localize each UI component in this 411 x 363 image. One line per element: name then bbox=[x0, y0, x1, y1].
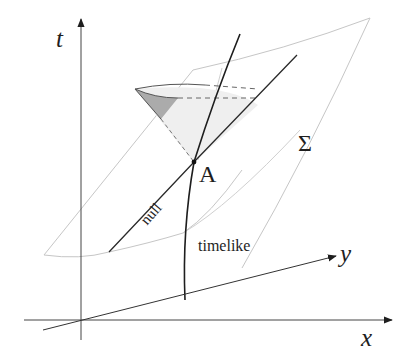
light-cone-diagram: t x y A Σ null timelike bbox=[0, 0, 411, 363]
timelike-label: timelike bbox=[198, 238, 250, 254]
t-axis-label: t bbox=[56, 26, 63, 51]
light-cone bbox=[135, 84, 258, 162]
point-a-label: A bbox=[199, 162, 216, 186]
x-axis-label: x bbox=[361, 325, 372, 350]
point-a-marker bbox=[192, 160, 197, 165]
y-axis bbox=[43, 256, 336, 330]
sigma-label: Σ bbox=[298, 131, 312, 155]
y-axis-label: y bbox=[340, 241, 351, 266]
